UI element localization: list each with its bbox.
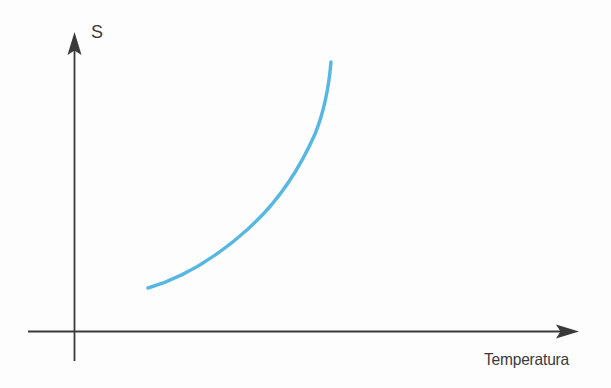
entropy-curve <box>148 62 331 288</box>
y-axis-label: S <box>91 22 103 43</box>
x-axis-label: Temperatura <box>484 350 569 369</box>
entropy-temperature-plot <box>0 0 611 388</box>
figure-canvas: S Temperatura <box>0 0 611 388</box>
